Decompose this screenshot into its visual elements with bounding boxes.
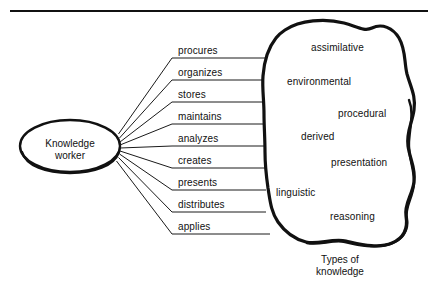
verb-label-analyzes: analyzes <box>178 133 218 144</box>
knowledge-type-linguistic: linguistic <box>276 187 315 198</box>
verb-label-organizes: organizes <box>178 67 222 78</box>
diagram-canvas: Knowledge worker procures organizes stor… <box>0 0 437 287</box>
knowledge-type-derived: derived <box>301 131 335 142</box>
knowledge-worker-label-line-1: Knowledge <box>45 138 94 150</box>
verb-label-stores: stores <box>178 89 206 100</box>
blob-caption-line-2: knowledge <box>316 266 364 278</box>
verb-label-applies: applies <box>178 221 210 232</box>
connector-lines <box>117 58 173 234</box>
verb-label-distributes: distributes <box>178 199 225 210</box>
knowledge-type-presentation: presentation <box>331 157 387 168</box>
verb-label-maintains: maintains <box>178 111 222 122</box>
blob-caption-line-1: Types of <box>316 254 364 266</box>
knowledge-worker-node: Knowledge worker <box>45 138 94 161</box>
knowledge-type-reasoning: reasoning <box>330 211 375 222</box>
verb-label-procures: procures <box>178 45 218 56</box>
knowledge-worker-label-line-2: worker <box>45 150 94 162</box>
knowledge-type-environmental: environmental <box>287 76 351 87</box>
blob-caption: Types of knowledge <box>316 254 364 277</box>
knowledge-type-procedural: procedural <box>338 108 386 119</box>
verb-label-creates: creates <box>178 155 212 166</box>
verb-label-presents: presents <box>178 177 217 188</box>
knowledge-type-assimilative: assimilative <box>311 42 364 53</box>
